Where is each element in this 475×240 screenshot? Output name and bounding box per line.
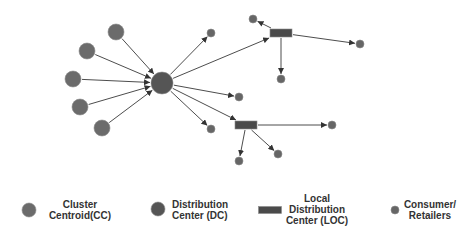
legend-label-line: Cluster	[49, 199, 111, 210]
legend-label-cluster-centroid: Cluster Centroid(CC)	[49, 199, 111, 221]
legend-label-line: Local	[286, 193, 348, 204]
local-distribution-center-node	[270, 29, 292, 37]
legend-label-local-distribution-center: Local Distribution Center (LOC)	[286, 193, 348, 226]
cluster-centroid-node	[94, 120, 110, 136]
consumer-node	[277, 75, 285, 83]
cluster-centroid-node	[79, 43, 95, 59]
legend-swatch-cluster-centroid	[22, 203, 36, 217]
edges	[82, 21, 355, 156]
legend-label-line: Consumer/	[404, 199, 456, 210]
cluster-centroid-node	[72, 99, 88, 115]
legend-label-consumer: Consumer/ Retailers	[404, 199, 456, 221]
edge-arrow	[240, 130, 245, 156]
legend-label-line: Centroid(CC)	[49, 210, 111, 221]
edge-arrow	[257, 21, 271, 28]
legend-label-line: Distribution	[172, 199, 228, 210]
edge-arrow	[252, 130, 275, 151]
consumer-node	[249, 15, 257, 23]
edge-arrow	[109, 90, 152, 122]
local-distribution-center-node	[235, 121, 257, 129]
edge-arrow	[82, 79, 150, 82]
edge-arrow	[122, 39, 154, 74]
consumer-node	[274, 150, 282, 158]
legend-swatch-consumer	[391, 206, 399, 214]
legend-label-line: Retailers	[404, 210, 456, 221]
edge-arrow	[173, 88, 236, 120]
edge-arrow	[173, 38, 269, 78]
edge-arrow	[293, 35, 355, 44]
edge-arrow	[170, 37, 207, 75]
edge-arrow	[174, 85, 234, 96]
nodes	[65, 15, 364, 165]
consumer-node	[235, 93, 243, 101]
legend-label-line: Distribution	[286, 204, 348, 215]
consumer-node	[235, 157, 243, 165]
distribution-center-node	[151, 72, 173, 94]
legend-label-line: Center (LOC)	[286, 215, 348, 226]
consumer-node	[207, 29, 215, 37]
consumer-node	[328, 121, 336, 129]
cluster-centroid-node	[65, 71, 81, 87]
legend-label-line: Center (DC)	[172, 210, 228, 221]
legend-label-distribution-center: Distribution Center (DC)	[172, 199, 228, 221]
cluster-centroid-node	[108, 24, 124, 40]
consumer-node	[207, 125, 215, 133]
consumer-node	[356, 40, 364, 48]
legend-swatch-distribution-center	[151, 202, 165, 216]
edge-arrow	[95, 55, 151, 79]
legend-swatch-local-distribution-center	[259, 207, 282, 214]
edge-arrow	[89, 86, 151, 104]
